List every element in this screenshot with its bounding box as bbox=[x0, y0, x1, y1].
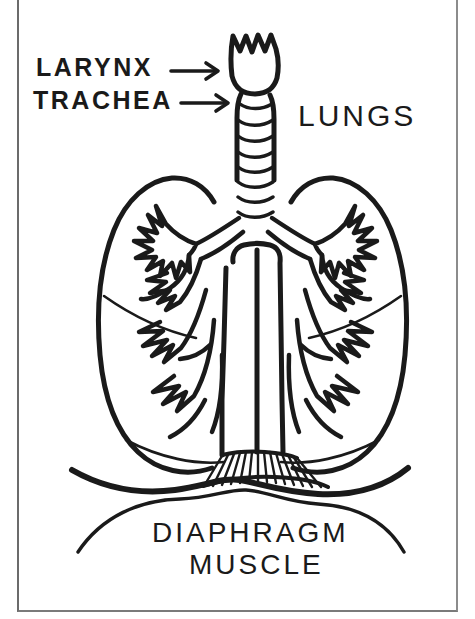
mediastinum-column bbox=[222, 244, 283, 456]
label-lungs: LUNGS bbox=[298, 101, 416, 131]
figure-root: LARYNX TRACHEA LUNGS DIAPHRAGM MUSCLE bbox=[0, 0, 475, 619]
larynx-arrow-icon bbox=[168, 58, 230, 84]
label-muscle: MUSCLE bbox=[189, 551, 324, 579]
label-larynx: LARYNX bbox=[36, 55, 153, 80]
right-bronchial-tree bbox=[289, 206, 377, 437]
larynx-shape bbox=[231, 35, 278, 94]
trachea-arrow-icon bbox=[178, 90, 240, 116]
trachea-shape bbox=[237, 94, 274, 217]
label-trachea: TRACHEA bbox=[33, 88, 173, 113]
label-diaphragm: DIAPHRAGM bbox=[152, 519, 349, 547]
